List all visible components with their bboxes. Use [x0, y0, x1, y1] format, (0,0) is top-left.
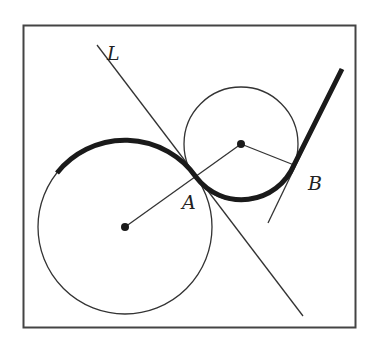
- label-b: B: [307, 172, 322, 194]
- label-l: L: [106, 42, 120, 64]
- label-a: A: [180, 191, 196, 213]
- radius-small-to-b: [241, 144, 294, 165]
- thick-curve-path: [57, 69, 342, 200]
- radius-large-to-a: [125, 144, 241, 227]
- large-circle-center-dot: [121, 223, 129, 231]
- tangent-circles-diagram: L A B: [0, 0, 376, 349]
- frame: [24, 26, 356, 328]
- small-circle-center-dot: [237, 140, 245, 148]
